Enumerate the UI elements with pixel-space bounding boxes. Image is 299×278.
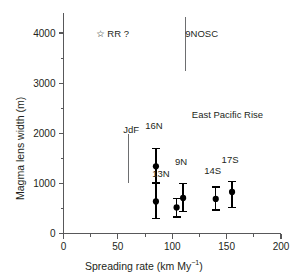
y-axis-title: Magma lens width (m)	[14, 97, 26, 200]
x-axis-tick-label: 50	[112, 241, 123, 252]
x-axis-tick-label: 0	[61, 241, 67, 252]
x-axis-title-tail: )	[199, 260, 203, 272]
data-point-17S	[229, 189, 235, 195]
point-label-9N: 9N	[175, 156, 187, 167]
y-axis-tick-label: 2000	[33, 128, 55, 139]
x-axis-tick-label: 150	[218, 241, 235, 252]
annotation-9nosc: 9NOSC	[185, 28, 218, 39]
y-axis-tick-label: 1000	[33, 178, 55, 189]
point-label-17S: 17S	[222, 154, 239, 165]
annotation-jdf: JdF	[123, 124, 139, 135]
point-label-13N: 13N	[152, 168, 169, 179]
x-axis-title: Spreading rate (km My−1)	[85, 259, 203, 272]
x-axis-title-exponent: −1	[191, 259, 199, 266]
y-axis-tick-label: 3000	[33, 78, 55, 89]
x-axis-title-base: Spreading rate (km My	[85, 260, 191, 272]
point-label-14S: 14S	[204, 165, 221, 176]
y-axis-tick-label: 0	[50, 228, 56, 239]
chart-canvas	[0, 0, 299, 278]
data-point-unlabeled	[174, 204, 180, 210]
data-point-14S	[213, 196, 219, 202]
magma-lens-width-chart: Magma lens width (m) Spreading rate (km …	[0, 0, 299, 278]
point-label-16N: 16N	[145, 120, 162, 131]
x-axis-tick-label: 200	[273, 241, 290, 252]
annotation-epr: East Pacific Rise	[192, 109, 263, 120]
annotation-rr-star: ☆ RR ?	[96, 28, 129, 39]
y-axis-tick-label: 4000	[33, 28, 55, 39]
x-axis-tick-label: 100	[164, 241, 181, 252]
data-point-13N	[153, 198, 159, 204]
data-point-9N	[180, 195, 186, 201]
